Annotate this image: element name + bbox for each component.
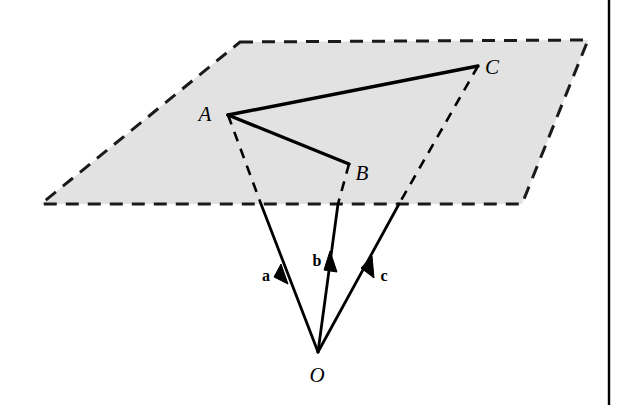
- label-point-a: A: [197, 102, 212, 126]
- vector-b-arrowhead: [324, 251, 337, 272]
- vector-plane-diagram: A B C O a b c: [0, 0, 625, 405]
- label-vector-c: c: [380, 267, 387, 284]
- label-point-b: B: [356, 161, 369, 185]
- plane-surface: [41, 40, 588, 204]
- label-vector-b: b: [313, 252, 322, 269]
- label-point-c: C: [485, 55, 500, 79]
- vector-b-shaft: [318, 204, 338, 352]
- figure-root: A B C O a b c: [0, 0, 625, 405]
- label-origin-o: O: [309, 363, 324, 387]
- label-vector-a: a: [262, 267, 270, 284]
